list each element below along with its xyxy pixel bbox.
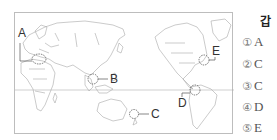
choice-4-number: ④ — [242, 101, 252, 114]
answer-choices-panel: 갑 ①A ②C ③C ④D ⑤E — [238, 0, 277, 140]
region-label-a: A — [18, 27, 26, 39]
region-c-circle — [130, 110, 139, 119]
choice-5[interactable]: ⑤E — [242, 120, 262, 136]
choice-3-number: ③ — [242, 80, 252, 93]
region-b-circle — [88, 74, 98, 84]
choice-1-value: A — [254, 34, 263, 49]
choice-5-number: ⑤ — [242, 122, 252, 135]
region-label-b: B — [110, 73, 118, 85]
panel-header: 갑 — [260, 12, 271, 29]
choice-1-number: ① — [242, 36, 252, 49]
choice-3[interactable]: ③C — [242, 78, 263, 94]
choice-2-value: C — [254, 56, 263, 71]
region-a-circle — [32, 54, 46, 64]
choice-3-value: C — [254, 78, 263, 93]
leader-line-a — [20, 43, 32, 61]
choice-2-number: ② — [242, 58, 252, 71]
region-label-d: D — [178, 97, 187, 109]
region-label-c: C — [151, 108, 160, 120]
choice-2[interactable]: ②C — [242, 56, 263, 72]
region-label-e: E — [212, 45, 220, 57]
choice-4-value: D — [254, 99, 263, 114]
choice-4[interactable]: ④D — [242, 99, 263, 115]
choice-1[interactable]: ①A — [242, 34, 263, 50]
world-map: A B C D E — [14, 12, 233, 134]
choice-5-value: E — [254, 120, 262, 135]
world-map-outlines — [15, 13, 234, 135]
